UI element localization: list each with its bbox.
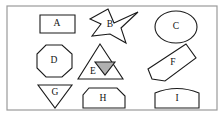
shape-d-label: D [51,55,58,65]
shape-c-label: C [173,21,179,31]
shape-b-label: B [107,19,113,29]
shape-i-label: I [175,93,178,103]
shape-g-label: G [52,87,59,97]
shape-a-label: A [54,18,61,28]
shapes-canvas: A B C D E F G H I [0,0,224,117]
figure-frame: A B C D E F G H I [0,0,224,117]
shape-f-label: F [170,57,175,67]
shape-h-label: H [100,93,107,103]
shape-e-label: E [90,66,96,76]
shape-b-star [90,9,138,43]
shapes-figure: A B C D E F G H I [0,0,224,117]
